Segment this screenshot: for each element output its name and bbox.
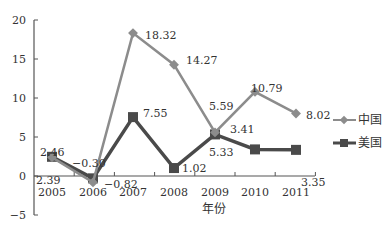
data-labels: 2.39−0.8218.3214.275.5910.798.022.46−0.3… bbox=[36, 29, 331, 191]
data-label-usa: −0.30 bbox=[72, 157, 106, 170]
x-axis: 2005200620072008200920102011 bbox=[34, 172, 315, 199]
data-label-china: 2.39 bbox=[36, 174, 61, 187]
y-tick-label: −5 bbox=[10, 209, 26, 222]
x-tick-label: 2010 bbox=[241, 186, 269, 199]
y-axis: −505101520 bbox=[10, 14, 38, 222]
diamond-marker-icon bbox=[291, 108, 301, 118]
legend-item-usa: 美国 bbox=[333, 136, 382, 150]
line-chart: −505101520 2005200620072008200920102011 … bbox=[0, 0, 390, 232]
data-label-china: −0.82 bbox=[104, 178, 138, 191]
square-marker-icon bbox=[250, 144, 260, 154]
data-label-usa: 2.46 bbox=[40, 146, 65, 159]
square-marker-icon bbox=[340, 139, 348, 147]
legend: 中国 美国 bbox=[333, 112, 382, 150]
data-label-usa: 3.35 bbox=[301, 176, 326, 189]
data-label-usa: 7.55 bbox=[143, 107, 168, 120]
square-marker-icon bbox=[169, 163, 179, 173]
x-tick-label: 2009 bbox=[201, 186, 229, 199]
x-axis-title: 年份 bbox=[202, 202, 226, 216]
data-label-china: 18.32 bbox=[145, 29, 177, 42]
x-tick-label: 2006 bbox=[79, 186, 107, 199]
data-label-china: 5.59 bbox=[209, 100, 234, 113]
diamond-marker-icon bbox=[340, 116, 348, 124]
data-label-usa: 5.33 bbox=[209, 146, 234, 159]
legend-label-china: 中国 bbox=[358, 112, 382, 127]
legend-label-usa: 美国 bbox=[358, 136, 382, 150]
data-label-china: 10.79 bbox=[251, 82, 283, 95]
legend-item-china: 中国 bbox=[333, 112, 382, 127]
y-tick-label: 0 bbox=[19, 170, 26, 183]
y-tick-label: 10 bbox=[12, 92, 26, 105]
y-tick-label: 15 bbox=[12, 53, 26, 66]
square-marker-icon bbox=[128, 112, 138, 122]
square-marker-icon bbox=[291, 145, 301, 155]
data-label-usa: 3.41 bbox=[230, 123, 255, 136]
data-label-china: 8.02 bbox=[306, 109, 331, 122]
y-tick-label: 20 bbox=[12, 14, 26, 27]
y-tick-label: 5 bbox=[19, 131, 26, 144]
data-label-usa: 1.02 bbox=[182, 162, 207, 175]
x-tick-label: 2005 bbox=[38, 186, 66, 199]
x-tick-label: 2008 bbox=[160, 186, 188, 199]
data-label-china: 14.27 bbox=[186, 54, 218, 67]
